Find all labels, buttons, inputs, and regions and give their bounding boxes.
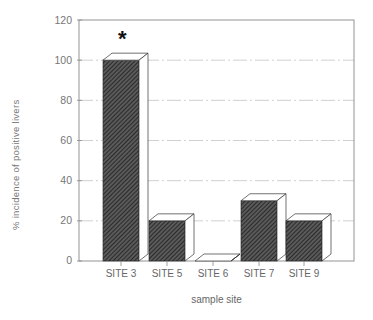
y-axis-label: % incidence of positive livers bbox=[10, 100, 21, 230]
y-tick-80: 80 bbox=[48, 94, 72, 106]
significance-asterisk: * bbox=[118, 26, 127, 52]
y-tick-120: 120 bbox=[48, 14, 72, 26]
y-tick-20: 20 bbox=[48, 214, 72, 226]
x-tick-site-9: SITE 9 bbox=[284, 268, 324, 279]
x-tick-site-6: SITE 6 bbox=[193, 268, 233, 279]
x-tick-site-7: SITE 7 bbox=[239, 268, 279, 279]
y-tick-100: 100 bbox=[48, 54, 72, 66]
x-tick-site-3: SITE 3 bbox=[101, 268, 141, 279]
y-tick-40: 40 bbox=[48, 174, 72, 186]
x-axis-label: sample site bbox=[0, 294, 373, 305]
x-tick-site-5: SITE 5 bbox=[147, 268, 187, 279]
bar-chart: % incidence of positive livers sample si… bbox=[0, 0, 373, 320]
y-tick-60: 60 bbox=[48, 134, 72, 146]
y-tick-0: 0 bbox=[48, 254, 72, 266]
